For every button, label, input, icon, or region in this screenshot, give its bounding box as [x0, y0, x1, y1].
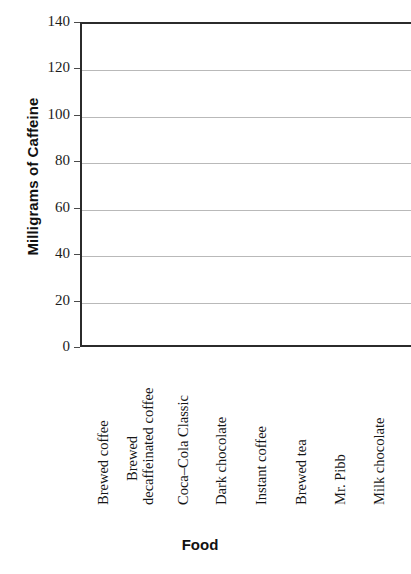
gridline	[82, 117, 411, 118]
x-axis-category-label-line: Milk chocolate	[372, 418, 387, 505]
x-axis-category-label-line: Instant coffee	[254, 426, 269, 505]
x-axis-category-label-line: Coca–Cola Classic	[176, 395, 191, 505]
y-axis-tick-label: 140	[10, 14, 70, 29]
y-axis-tick-label: 120	[10, 60, 70, 75]
plot-area	[80, 22, 411, 347]
x-axis-category-label-line: decaffeinated coffee	[141, 388, 156, 505]
x-axis-category-label-line: Mr. Pibb	[333, 454, 348, 505]
x-axis-category-label-line: Dark chocolate	[214, 417, 229, 505]
x-axis-category-label-line: Brewed	[125, 436, 140, 481]
gridline	[82, 303, 411, 304]
x-axis-category-label-line: Brewed coffee	[96, 420, 111, 505]
x-axis-title: Food	[80, 536, 320, 553]
y-axis-tick-label: 60	[10, 200, 70, 215]
y-axis-tick-label: 20	[10, 293, 70, 308]
x-axis-category-label-line: Brewed tea	[294, 439, 309, 505]
y-axis-tick-label: 0	[10, 339, 70, 354]
y-axis-tick	[74, 347, 80, 348]
y-axis-tick-label: 80	[10, 153, 70, 168]
gridline	[82, 163, 411, 164]
gridline	[82, 256, 411, 257]
y-axis-tick-label: 40	[10, 246, 70, 261]
y-axis-tick-label: 100	[10, 107, 70, 122]
gridline	[82, 210, 411, 211]
caffeine-bar-chart-figure: Milligrams of Caffeine 02040608010012014…	[0, 0, 411, 574]
gridline	[82, 70, 411, 71]
